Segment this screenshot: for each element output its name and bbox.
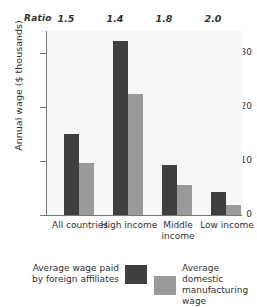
- x-axis-baseline: [46, 215, 242, 216]
- legend-swatch-domestic: [154, 276, 176, 295]
- legend-entry-domestic: Average domestic manufacturing wage: [154, 263, 252, 307]
- bar-high-income-domestic: [128, 94, 143, 215]
- y-axis-title: Annual wage ($ thousands): [13, 6, 24, 166]
- legend-label-affiliate: Average wage paid by foreign affiliates: [32, 263, 119, 285]
- ratio-annotation-row: Ratio 1.5 1.4 1.8 2.0: [0, 13, 252, 29]
- chart-legend: Average wage paid by foreign affiliates …: [0, 263, 252, 297]
- ratio-value-low-income: 2.0: [193, 13, 233, 24]
- bar-all-countries-domestic: [79, 163, 94, 215]
- legend-entry-affiliate: Average wage paid by foreign affiliates: [32, 263, 147, 285]
- legend-swatch-affiliate: [125, 265, 147, 284]
- bar-low-income-affiliate: [211, 192, 226, 215]
- x-tick-label-low-income: Low income: [197, 220, 257, 231]
- ratio-value-middle-income: 1.8: [144, 13, 184, 24]
- ratio-value-high-income: 1.4: [95, 13, 135, 24]
- bar-middle-income-affiliate: [162, 165, 177, 215]
- bar-all-countries-affiliate: [64, 134, 79, 215]
- bar-middle-income-domestic: [177, 185, 192, 215]
- ratio-value-all-countries: 1.5: [46, 13, 86, 24]
- plot-area: [46, 31, 243, 215]
- legend-label-domestic: Average domestic manufacturing wage: [182, 263, 252, 307]
- bar-high-income-affiliate: [113, 41, 128, 215]
- bar-low-income-domestic: [226, 205, 241, 215]
